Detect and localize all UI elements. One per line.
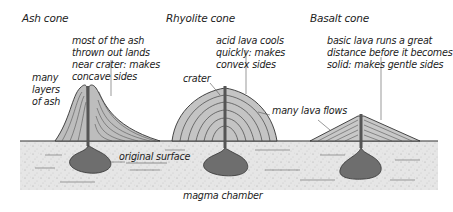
note-line: concave sides bbox=[72, 71, 160, 83]
label-line: layers bbox=[32, 84, 60, 96]
basalt-cone-title: Basalt cone bbox=[310, 12, 369, 24]
note-line: near crater: makes bbox=[72, 59, 160, 71]
note-line: most of the ash bbox=[72, 35, 160, 47]
rhyolite-cone-note: acid lava cools quickly: makes convex si… bbox=[216, 35, 285, 71]
lava-flows-label: many lava flows bbox=[272, 105, 347, 117]
crater-label: crater bbox=[183, 73, 211, 85]
original-surface-label: original surface bbox=[119, 151, 190, 163]
basalt-cone-note: basic lava runs a great distance before … bbox=[327, 35, 453, 71]
note-line: quickly: makes bbox=[216, 47, 285, 59]
ash-cone-title: Ash cone bbox=[22, 12, 68, 24]
rhyolite-cone-title: Rhyolite cone bbox=[166, 12, 235, 24]
label-line: of ash bbox=[32, 96, 60, 108]
note-line: distance before it becomes bbox=[327, 47, 453, 59]
ash-layers-label: many layers of ash bbox=[32, 72, 60, 108]
label-line: many bbox=[32, 72, 60, 84]
note-line: thrown out lands bbox=[72, 47, 160, 59]
note-line: convex sides bbox=[216, 59, 285, 71]
ash-cone-note: most of the ash thrown out lands near cr… bbox=[72, 35, 160, 83]
magma-chamber-label: magma chamber bbox=[183, 190, 263, 202]
note-line: basic lava runs a great bbox=[327, 35, 453, 47]
note-line: acid lava cools bbox=[216, 35, 285, 47]
note-line: solid: makes gentle sides bbox=[327, 59, 453, 71]
